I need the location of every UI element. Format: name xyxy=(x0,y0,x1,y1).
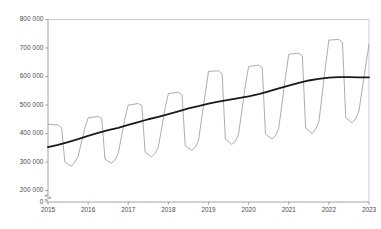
x-axis-tick-label: 2021 xyxy=(273,207,305,213)
x-axis-tick-label: 2018 xyxy=(152,207,184,213)
y-axis-tick-label: 800 000 xyxy=(20,16,44,22)
series-line-trend xyxy=(48,77,369,147)
y-axis-zero-label: 0 xyxy=(40,199,44,205)
y-axis-tick-label: 400 000 xyxy=(20,130,44,136)
y-axis-tick-label: 600 000 xyxy=(20,73,44,79)
y-axis-tick-label: 200 000 xyxy=(20,187,44,193)
y-axis-tick-label: 700 000 xyxy=(20,45,44,51)
x-axis-tick-label: 2015 xyxy=(32,207,64,213)
x-axis-tick-label: 2022 xyxy=(313,207,345,213)
x-axis-tick-label: 2017 xyxy=(112,207,144,213)
x-axis-tick-label: 2019 xyxy=(193,207,225,213)
x-axis-tick-label: 2020 xyxy=(233,207,265,213)
y-axis-tick-label: 500 000 xyxy=(20,102,44,108)
y-axis-tick-label: 300 000 xyxy=(20,159,44,165)
x-axis-tick-label: 2016 xyxy=(72,207,104,213)
x-axis-tick-label: 2023 xyxy=(353,207,381,213)
